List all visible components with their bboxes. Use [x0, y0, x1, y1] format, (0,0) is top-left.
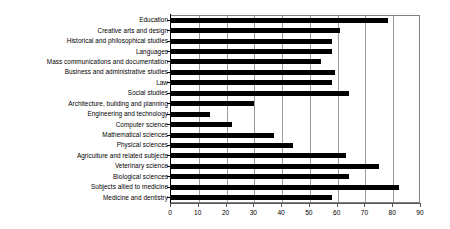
bar-track	[171, 25, 421, 35]
x-tick	[170, 203, 171, 207]
category-tick	[167, 51, 170, 52]
category-label: Education	[0, 16, 168, 24]
category-tick	[167, 145, 170, 146]
bar-row: Historical and philosophical studies	[0, 36, 450, 46]
x-tick	[309, 203, 310, 207]
bar	[171, 80, 332, 85]
bar-track	[171, 36, 421, 46]
bar-track	[171, 172, 421, 182]
bar-track	[171, 119, 421, 129]
x-tick-label: 90	[416, 208, 423, 217]
category-label: Agriculture and related subjects	[0, 152, 168, 160]
category-tick	[167, 135, 170, 136]
bar	[171, 122, 232, 127]
bar-row: Subjects allied to medicine	[0, 182, 450, 192]
x-tick-label: 50	[305, 208, 312, 217]
category-label: Languages	[0, 48, 168, 56]
x-tick	[226, 203, 227, 207]
bar-track	[171, 140, 421, 150]
bar-row: Physical sciences	[0, 140, 450, 150]
bar	[171, 153, 346, 158]
x-tick	[281, 203, 282, 207]
bar	[171, 101, 254, 106]
bar-track	[171, 67, 421, 77]
bar-track	[171, 57, 421, 67]
category-label: Law	[0, 79, 168, 87]
bar-row: Business and administrative studies	[0, 67, 450, 77]
x-tick	[364, 203, 365, 207]
bar-row: Architecture, building and planning	[0, 99, 450, 109]
category-label: Mathematical sciences	[0, 131, 168, 139]
x-tick-label: 0	[168, 208, 172, 217]
bar	[171, 185, 399, 190]
bar	[171, 112, 210, 117]
category-label: Physical sciences	[0, 141, 168, 149]
category-label: Engineering and technology	[0, 110, 168, 118]
bar	[171, 39, 332, 44]
category-label: Business and administrative studies	[0, 68, 168, 76]
bar-row: Mass communications and documentation	[0, 57, 450, 67]
bar-row: Biological sciences	[0, 172, 450, 182]
bar	[171, 59, 321, 64]
category-label: Subjects allied to medicine	[0, 183, 168, 191]
bar-track	[171, 161, 421, 171]
bar-row: Engineering and technology	[0, 109, 450, 119]
x-tick	[198, 203, 199, 207]
x-tick-label: 70	[361, 208, 368, 217]
x-tick-label: 30	[250, 208, 257, 217]
category-tick	[167, 93, 170, 94]
category-tick	[167, 82, 170, 83]
bar-track	[171, 151, 421, 161]
category-tick	[167, 176, 170, 177]
category-tick	[167, 103, 170, 104]
bar-chart: EducationCreative arts and designHistori…	[0, 0, 450, 229]
bar-row: Social studies	[0, 88, 450, 98]
category-tick	[167, 187, 170, 188]
category-label: Biological sciences	[0, 173, 168, 181]
category-tick	[167, 30, 170, 31]
bar-row: Mathematical sciences	[0, 130, 450, 140]
bar	[171, 164, 379, 169]
bar-track	[171, 78, 421, 88]
bar	[171, 28, 340, 33]
bar-row: Agriculture and related subjects	[0, 151, 450, 161]
x-tick-label: 20	[222, 208, 229, 217]
bar-row: Education	[0, 15, 450, 25]
bar-rows: EducationCreative arts and designHistori…	[0, 15, 450, 203]
category-tick	[167, 124, 170, 125]
category-label: Veterinary science	[0, 162, 168, 170]
x-tick-label: 60	[333, 208, 340, 217]
category-tick	[167, 72, 170, 73]
bar-track	[171, 109, 421, 119]
bar	[171, 49, 332, 54]
bar	[171, 91, 349, 96]
category-tick	[167, 20, 170, 21]
category-label: Computer science	[0, 121, 168, 129]
category-tick	[167, 197, 170, 198]
x-axis-tick-labels: 0102030405060708090	[0, 208, 450, 222]
x-tick-label: 80	[389, 208, 396, 217]
bar-row: Veterinary science	[0, 161, 450, 171]
bar-track	[171, 130, 421, 140]
bar-track	[171, 182, 421, 192]
bar-row: Computer science	[0, 119, 450, 129]
bar-row: Creative arts and design	[0, 25, 450, 35]
bar	[171, 143, 293, 148]
category-label: Mass communications and documentation	[0, 58, 168, 66]
bar	[171, 70, 335, 75]
bar	[171, 133, 274, 138]
bar-track	[171, 192, 421, 202]
bar-track	[171, 88, 421, 98]
bar-track	[171, 15, 421, 25]
x-tick	[337, 203, 338, 207]
category-label: Social studies	[0, 89, 168, 97]
x-tick	[253, 203, 254, 207]
category-label: Architecture, building and planning	[0, 100, 168, 108]
category-tick	[167, 114, 170, 115]
bar	[171, 18, 388, 23]
category-label: Creative arts and design	[0, 27, 168, 35]
category-label: Medicine and dentistry	[0, 194, 168, 202]
bar-track	[171, 46, 421, 56]
x-tick	[392, 203, 393, 207]
category-tick	[167, 41, 170, 42]
